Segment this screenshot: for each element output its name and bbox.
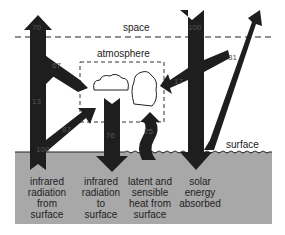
- surface-label: surface: [226, 140, 259, 150]
- caption-line: infrared: [17, 176, 77, 187]
- caption-line: solar: [170, 176, 230, 187]
- caption-line: from: [17, 198, 77, 209]
- caption-line: radiation: [17, 187, 77, 198]
- caption-solar-absorbed: solar energy absorbed: [170, 176, 230, 209]
- flow-value-100-surface: 100: [36, 145, 50, 154]
- space-label: space: [123, 23, 150, 33]
- ir-from-surface-arrows: [24, 15, 96, 170]
- flow-value-67: 67: [52, 61, 61, 70]
- solar-reflected-arrow: [204, 10, 262, 150]
- caption-line: absorbed: [170, 198, 230, 209]
- flow-value-76: 76: [106, 131, 115, 140]
- flow-value-13: 13: [32, 97, 41, 106]
- caption-line: surface: [17, 209, 77, 220]
- caption-ir-from-surface: infrared radiation from surface: [17, 176, 77, 220]
- caption-line: surface: [120, 209, 180, 220]
- atmosphere-label: atmosphere: [97, 49, 150, 59]
- ir-surface-to-atmosphere-arrow: [46, 108, 96, 152]
- solar-incoming-arrow: [180, 10, 230, 170]
- low-cloud-icon: [94, 74, 129, 90]
- flow-value-70: 70: [32, 23, 41, 32]
- flow-value-100-solar: 100: [188, 23, 202, 32]
- flow-value-17: 17: [174, 77, 183, 86]
- caption-line: energy: [170, 187, 230, 198]
- flow-value-25: 25: [144, 127, 153, 136]
- flow-value-87: 87: [62, 125, 71, 134]
- ir-to-space-arrow: [24, 15, 60, 152]
- flow-value-31: 31: [228, 53, 237, 62]
- energy-balance-diagram: 70 67 13 87 100 76 25 100 31 17 space at…: [0, 0, 285, 235]
- tall-cloud-icon: [132, 72, 157, 107]
